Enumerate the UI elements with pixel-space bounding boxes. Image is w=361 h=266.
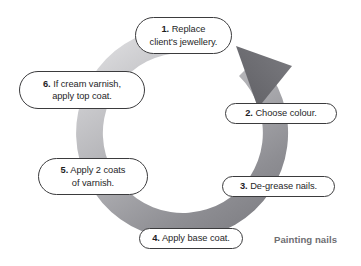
step-box-4: 4. Apply base coat. (139, 228, 243, 249)
step-2-number: 2. (245, 108, 253, 118)
step-1-number: 1. (162, 24, 170, 34)
step-6-line2: apply top coat. (52, 91, 112, 101)
step-box-6: 6. If cream varnish, apply top coat. (19, 71, 145, 109)
step-5-line1: Apply 2 coats (70, 165, 125, 175)
step-3-number: 3. (240, 181, 248, 191)
step-5-number: 5. (61, 165, 69, 175)
step-5-line2: of varnish. (72, 178, 114, 188)
step-1-text: 1. Replace client's jewellery. (150, 23, 218, 48)
step-box-1: 1. Replace client's jewellery. (135, 17, 232, 54)
step-2-text: 2. Choose colour. (245, 107, 317, 119)
step-4-text: 4. Apply base coat. (152, 232, 230, 244)
cycle-diagram: 1. Replace client's jewellery. 2. Choose… (0, 0, 361, 266)
step-3-text: 3. De-grease nails. (240, 180, 317, 192)
step-6-text: 6. If cream varnish, apply top coat. (43, 78, 121, 103)
step-4-number: 4. (152, 233, 160, 243)
step-3-label: De-grease nails. (250, 181, 317, 191)
step-1-line1: Replace (172, 24, 206, 34)
step-5-text: 5. Apply 2 coats of varnish. (61, 164, 126, 189)
step-box-2: 2. Choose colour. (225, 103, 337, 124)
diagram-caption: Painting nails (274, 234, 337, 245)
step-1-line2: client's jewellery. (150, 37, 218, 47)
step-box-3: 3. De-grease nails. (222, 176, 335, 197)
step-2-label: Choose colour. (255, 108, 316, 118)
step-6-number: 6. (43, 79, 51, 89)
step-6-line1: If cream varnish, (53, 79, 121, 89)
step-box-5: 5. Apply 2 coats of varnish. (38, 158, 148, 195)
step-4-label: Apply base coat. (162, 233, 230, 243)
